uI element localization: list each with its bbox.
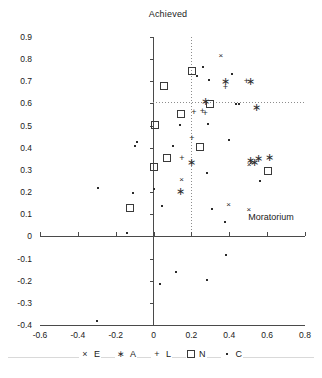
plus-icon: + xyxy=(152,350,162,359)
x-tick xyxy=(116,232,117,236)
data-point-l: + xyxy=(244,76,249,85)
y-tick xyxy=(150,214,154,215)
x-tick xyxy=(191,232,192,236)
data-point-c xyxy=(136,141,138,143)
scatter-plot-figure: Achieved ××××××∗∗∗∗∗∗∗∗∗∗+++++++ 0.90.80… xyxy=(0,0,322,378)
legend-item-n: N xyxy=(186,349,207,359)
y-axis-line xyxy=(153,37,154,325)
y-tick-label: 0 xyxy=(2,231,32,241)
data-point-e: × xyxy=(226,201,231,209)
y-tick-label: 0.7 xyxy=(2,76,32,86)
legend-label: L xyxy=(166,349,171,359)
x-tick xyxy=(154,232,155,236)
data-point-c xyxy=(211,208,213,210)
dot-icon xyxy=(226,353,228,355)
legend-label: E xyxy=(94,349,100,359)
data-point-c xyxy=(96,320,98,322)
data-point-l: + xyxy=(202,109,207,118)
y-tick xyxy=(150,192,154,193)
y-tick-label: 0.8 xyxy=(2,54,32,64)
y-tick xyxy=(150,81,154,82)
data-point-n xyxy=(206,100,214,108)
y-tick-label: 0.5 xyxy=(2,121,32,131)
y-tick-label: -0.1 xyxy=(2,254,32,264)
data-point-n xyxy=(160,82,168,90)
y-tick xyxy=(150,59,154,60)
y-tick-label: 0.1 xyxy=(2,209,32,219)
data-point-n xyxy=(188,67,196,75)
y-tick-label: -0.4 xyxy=(2,320,32,330)
data-point-c xyxy=(225,254,227,256)
plot-area: ××××××∗∗∗∗∗∗∗∗∗∗+++++++ xyxy=(40,37,305,325)
moratorium-label: Moratorium xyxy=(248,212,294,222)
legend-item-l: +L xyxy=(151,349,172,359)
data-point-c xyxy=(238,103,240,105)
y-tick-label: 0.4 xyxy=(2,143,32,153)
data-point-c xyxy=(224,221,226,223)
data-point-c xyxy=(175,271,177,273)
data-point-n xyxy=(264,167,272,175)
legend-item-a: ∗A xyxy=(115,349,137,359)
asterisk-icon: ∗ xyxy=(116,350,126,359)
data-point-c xyxy=(172,145,174,147)
data-point-c xyxy=(132,192,134,194)
x-tick-label: -0.6 xyxy=(25,330,55,340)
data-point-l: + xyxy=(189,134,194,143)
cross-icon: × xyxy=(80,350,90,359)
data-point-c xyxy=(206,172,208,174)
legend-label: N xyxy=(199,349,206,359)
data-point-a: ∗ xyxy=(252,101,261,112)
y-tick-label: 0.6 xyxy=(2,98,32,108)
y-tick xyxy=(150,37,154,38)
y-tick xyxy=(150,325,154,326)
x-tick-label: 0.4 xyxy=(214,330,244,340)
data-point-c xyxy=(126,232,128,234)
data-point-c xyxy=(134,145,136,147)
data-point-n xyxy=(150,163,158,171)
legend-item-e: ×E xyxy=(79,349,101,359)
data-point-c xyxy=(97,187,99,189)
y-tick xyxy=(150,303,154,304)
legend-label: A xyxy=(130,349,136,359)
data-point-l: + xyxy=(223,82,228,91)
data-point-c xyxy=(231,73,233,75)
data-point-l: + xyxy=(191,107,196,116)
x-tick-label: 0.6 xyxy=(252,330,282,340)
x-tick-label: 0.8 xyxy=(290,330,320,340)
y-tick-label: 0.9 xyxy=(2,32,32,42)
y-tick-label: -0.2 xyxy=(2,276,32,286)
data-point-a: ∗ xyxy=(265,152,274,163)
data-point-c xyxy=(161,205,163,207)
zero-horizontal-line xyxy=(40,236,305,237)
y-tick xyxy=(150,236,154,237)
data-point-l: + xyxy=(179,153,184,162)
data-point-a: ∗ xyxy=(187,156,196,167)
x-tick xyxy=(267,232,268,236)
x-tick-label: -0.2 xyxy=(101,330,131,340)
data-point-a: ∗ xyxy=(254,152,263,163)
x-tick-label: 0 xyxy=(139,330,169,340)
data-point-n xyxy=(196,143,204,151)
x-tick-label: -0.4 xyxy=(63,330,93,340)
data-point-c xyxy=(207,123,209,125)
data-point-c xyxy=(228,139,230,141)
y-tick xyxy=(150,259,154,260)
data-point-n xyxy=(151,121,159,129)
data-point-n xyxy=(163,154,171,162)
x-tick xyxy=(305,232,306,236)
x-tick xyxy=(78,232,79,236)
y-tick xyxy=(150,148,154,149)
data-point-c xyxy=(159,283,161,285)
data-point-c xyxy=(208,79,210,81)
x-tick xyxy=(229,232,230,236)
data-point-c xyxy=(153,188,155,190)
data-point-a: ∗ xyxy=(176,185,185,196)
data-point-c xyxy=(196,75,198,77)
y-tick xyxy=(150,103,154,104)
legend: ×E∗A+LNC xyxy=(0,344,322,364)
data-point-c xyxy=(202,66,204,68)
x-axis-line xyxy=(40,325,305,326)
data-point-n xyxy=(126,204,134,212)
plot-title: Achieved xyxy=(0,9,322,19)
data-point-c xyxy=(206,279,208,281)
